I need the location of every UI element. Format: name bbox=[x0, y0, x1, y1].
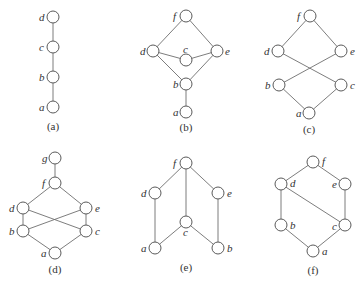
node-c bbox=[335, 79, 347, 91]
hasse-diagrams-figure: dcba(a)fdceba(b)fdebca(c)gfdebca(d)fdeca… bbox=[0, 0, 361, 286]
node-e bbox=[335, 45, 347, 57]
edge-f-d bbox=[153, 16, 186, 51]
node-label: a bbox=[296, 107, 302, 119]
diagram-caption: (e) bbox=[180, 261, 193, 274]
node-c bbox=[80, 225, 92, 237]
node-a bbox=[303, 107, 315, 119]
node-d bbox=[147, 45, 159, 57]
node-b bbox=[212, 242, 224, 254]
node-e bbox=[80, 202, 92, 214]
diagram-caption: (d) bbox=[49, 263, 62, 276]
node-label: f bbox=[173, 10, 178, 22]
node-label: e bbox=[225, 45, 230, 57]
node-b bbox=[273, 79, 285, 91]
node-label: d bbox=[264, 45, 270, 57]
node-a bbox=[47, 101, 59, 113]
node-label: b bbox=[173, 78, 179, 90]
diagram-caption: (c) bbox=[303, 123, 316, 136]
node-label: e bbox=[332, 178, 337, 190]
node-label: f bbox=[173, 157, 178, 169]
node-label: a bbox=[322, 245, 328, 257]
node-label: c bbox=[183, 43, 188, 55]
node-a bbox=[49, 247, 61, 259]
node-f bbox=[49, 177, 61, 189]
diagram-caption: (f) bbox=[308, 264, 319, 277]
node-label: f bbox=[297, 10, 302, 22]
edge-f-e bbox=[310, 16, 341, 51]
node-label: c bbox=[39, 41, 44, 53]
node-label: d bbox=[141, 187, 147, 199]
node-label: b bbox=[39, 71, 45, 83]
edge-f-d bbox=[278, 16, 310, 51]
node-a bbox=[149, 242, 161, 254]
node-label: a bbox=[39, 101, 45, 113]
node-c bbox=[339, 219, 351, 231]
node-label: c bbox=[350, 79, 355, 91]
node-label: e bbox=[227, 187, 232, 199]
node-label: b bbox=[227, 242, 233, 254]
node-label: c bbox=[332, 220, 337, 232]
diagram-c: fdebca(c) bbox=[264, 10, 355, 136]
node-f bbox=[180, 157, 192, 169]
node-label: e bbox=[95, 202, 100, 214]
node-c bbox=[180, 54, 192, 66]
node-label: a bbox=[41, 247, 47, 259]
node-a bbox=[307, 245, 319, 257]
diagram-f: fdebca(f) bbox=[275, 155, 351, 277]
node-label: d bbox=[9, 202, 15, 214]
node-e bbox=[211, 45, 223, 57]
node-label: a bbox=[141, 242, 147, 254]
node-label: e bbox=[350, 45, 355, 57]
node-label: d bbox=[39, 11, 45, 23]
node-d bbox=[47, 11, 59, 23]
node-label: b bbox=[290, 219, 296, 231]
node-label: c bbox=[95, 225, 100, 237]
node-d bbox=[17, 202, 29, 214]
node-d bbox=[149, 187, 161, 199]
edge-f-e bbox=[186, 16, 217, 51]
node-label: a bbox=[173, 106, 179, 118]
node-label: b bbox=[265, 79, 271, 91]
diagram-caption: (b) bbox=[180, 121, 193, 134]
node-g bbox=[49, 152, 61, 164]
node-b bbox=[275, 219, 287, 231]
node-c bbox=[47, 41, 59, 53]
node-label: f bbox=[42, 177, 47, 189]
node-b bbox=[180, 78, 192, 90]
node-f bbox=[180, 10, 192, 22]
node-label: f bbox=[322, 155, 327, 167]
node-label: c bbox=[183, 226, 188, 238]
node-a bbox=[180, 106, 192, 118]
node-d bbox=[272, 45, 284, 57]
diagram-b: fdceba(b) bbox=[140, 10, 230, 134]
diagram-d: gfdebca(d) bbox=[9, 152, 100, 276]
node-b bbox=[17, 225, 29, 237]
diagram-a: dcba(a) bbox=[39, 11, 59, 133]
diagram-e: fdecab(e) bbox=[141, 157, 233, 274]
node-f bbox=[304, 10, 316, 22]
node-label: d bbox=[140, 45, 146, 57]
node-d bbox=[275, 178, 287, 190]
node-label: g bbox=[42, 152, 48, 164]
node-b bbox=[47, 71, 59, 83]
diagram-caption: (a) bbox=[47, 120, 60, 133]
node-f bbox=[307, 156, 319, 168]
node-label: d bbox=[290, 177, 296, 189]
node-e bbox=[339, 178, 351, 190]
edge-f-e bbox=[186, 163, 218, 193]
node-e bbox=[212, 187, 224, 199]
node-label: b bbox=[9, 225, 15, 237]
